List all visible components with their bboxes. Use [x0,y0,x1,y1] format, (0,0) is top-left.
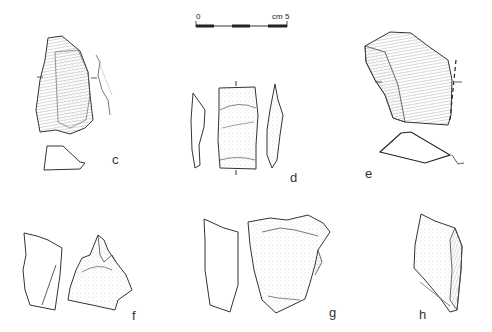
artifact-label-e: e [365,166,372,181]
scale-end-label: cm 5 [272,12,289,21]
scale-bar [196,21,287,28]
artifact-d-drawing [191,81,283,175]
artifact-plate: 0 cm 5 c d e f g h [0,0,492,332]
artifact-g-drawing [204,215,330,313]
plate-drawings [0,0,492,332]
artifact-f-drawing [23,233,132,310]
artifact-h-drawing [414,214,462,312]
artifact-label-d: d [290,170,297,185]
artifact-e-drawing [365,32,464,164]
artifact-label-h: h [419,307,426,322]
artifact-c-drawing [36,36,112,170]
scale-start-label: 0 [196,12,200,21]
artifact-label-c: c [112,152,119,167]
artifact-label-f: f [132,308,136,323]
artifact-label-g: g [329,305,336,320]
